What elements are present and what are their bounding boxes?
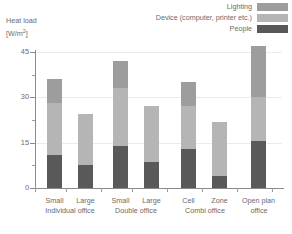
x-axis-ticks [35,188,284,193]
bar-3[interactable] [113,61,128,188]
x-tick-7 [272,188,273,192]
x-axis-labels: SmallLargeSmallLargeCellZoneOpen planInd… [35,196,290,232]
bar-1[interactable] [47,79,62,188]
legend-swatch-device [257,14,288,22]
bar-6[interactable] [212,122,227,188]
bar-segment-device [181,106,196,148]
bar-segment-people [78,165,93,188]
bar-7[interactable] [251,46,266,188]
bar-segment-lighting [47,79,62,103]
legend-label-people: People [230,24,252,33]
y-tick-label-45: 45 [3,48,29,56]
legend-label-device: Device (computer, printer etc.) [156,13,252,22]
y-tick-label-15: 15 [3,139,29,147]
x-label-sub-7: Open plan [233,196,285,205]
x-label-group-4-line: office [224,206,292,215]
x-tick-6 [237,188,238,192]
bar-segment-people [212,176,227,188]
legend-item-device: Device (computer, printer etc.) [156,13,288,22]
bar-segment-people [113,146,128,188]
x-label-group-4: office [224,206,292,215]
bar-5[interactable] [181,82,196,188]
bar-segment-people [181,149,196,188]
legend-item-lighting: Lighting [227,2,288,11]
x-label-group-1: Individual office [35,206,105,215]
legend-label-lighting: Lighting [227,2,252,11]
x-tick-0 [35,188,36,192]
bar-segment-lighting [251,46,266,97]
bar-segment-lighting [181,82,196,106]
bar-segment-device [113,88,128,145]
bar-segment-device [251,97,266,141]
bar-2[interactable] [78,114,93,188]
y-axis-ticks: 0153045 [0,0,29,234]
chart-legend: Lighting Device (computer, printer etc.)… [156,2,288,33]
bar-segment-people [144,162,159,188]
bar-segment-device [212,122,227,176]
x-tick-3 [132,188,133,192]
bar-segment-people [47,155,62,188]
y-tick-label-30: 30 [3,93,29,101]
x-tick-1 [66,188,67,192]
bar-series-container [35,50,284,188]
bar-segment-device [144,106,159,162]
y-tick-label-0: 0 [3,184,29,192]
legend-swatch-lighting [257,3,288,11]
bar-4[interactable] [144,106,159,188]
legend-item-people: People [230,24,288,33]
x-label-group-2: Double office [101,206,171,215]
x-tick-4 [167,188,168,192]
bar-segment-device [47,103,62,154]
x-tick-2 [101,188,102,192]
bar-segment-lighting [113,61,128,88]
bar-segment-device [78,114,93,165]
x-tick-5 [202,188,203,192]
legend-swatch-people [257,25,288,33]
bar-segment-people [251,141,266,188]
